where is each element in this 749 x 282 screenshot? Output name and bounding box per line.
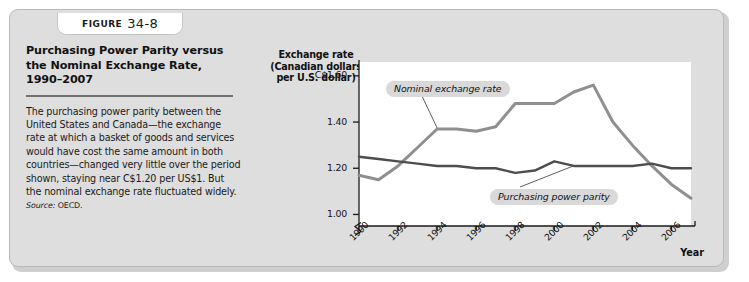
source-value: OECD.	[58, 201, 83, 210]
title-divider	[26, 95, 233, 97]
series-label-ppp: Purchasing power parity	[490, 189, 618, 205]
y-tick-label: C$1.60	[287, 69, 347, 80]
chart-area: Exchange rate (Canadian dollars per U.S.…	[262, 44, 710, 256]
y-tick-label: 1.40	[287, 116, 347, 127]
figure-word-label: FIGURE	[82, 19, 122, 29]
y-tick-label: 1.00	[287, 208, 347, 219]
figure-number-label: 34-8	[127, 16, 158, 31]
series-line	[359, 157, 691, 173]
y-tick-label: 1.20	[287, 162, 347, 173]
figure-source: Source: OECD.	[26, 201, 241, 210]
source-label: Source:	[26, 201, 55, 210]
figure-page: FIGURE 34-8 Purchasing Power Parity vers…	[0, 0, 749, 282]
figure-title: Purchasing Power Parity versus the Nomin…	[26, 44, 241, 88]
caption-column: Purchasing Power Parity versus the Nomin…	[26, 44, 241, 210]
series-line	[359, 85, 691, 198]
x-axis-title: Year	[680, 247, 704, 258]
figure-number-tab: FIGURE 34-8	[57, 12, 183, 35]
figure-caption-text: The purchasing power parity between the …	[26, 105, 241, 199]
series-label-nominal: Nominal exchange rate	[386, 81, 510, 97]
